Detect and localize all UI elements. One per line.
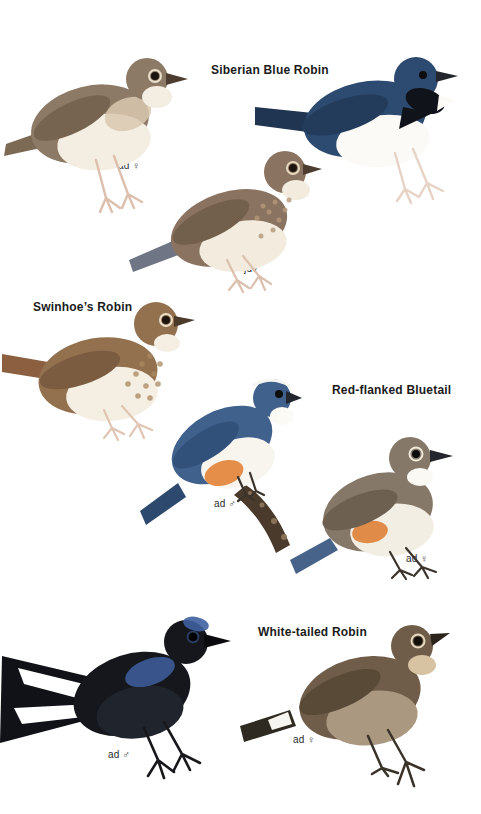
bird-beak <box>174 316 195 327</box>
bird-throat <box>282 180 310 200</box>
bird-beak <box>303 164 322 175</box>
bird-tail <box>140 483 186 525</box>
species-title-red-flanked-bluetail: Red-flanked Bluetail <box>332 383 451 397</box>
bird-eye <box>151 72 159 80</box>
bird-eye <box>412 450 420 458</box>
bird-eye <box>414 637 423 646</box>
bird-illustration <box>123 150 323 295</box>
bird-beak <box>286 391 302 404</box>
bird-throat <box>437 95 455 111</box>
field-guide-plate: Siberian Blue Robin Swinhoe’s Robin Red-… <box>0 0 481 814</box>
bird-illustration <box>238 618 480 793</box>
bird-beak <box>430 633 450 646</box>
bird-beak <box>166 73 188 85</box>
bird-throat <box>408 655 436 675</box>
figure-red-flanked-bluetail-male <box>138 373 303 563</box>
bird-eye <box>162 316 170 324</box>
figure-white-tailed-robin-male <box>0 608 240 788</box>
bird-eye <box>419 71 427 79</box>
bird-throat <box>142 86 172 108</box>
bird-eye <box>275 390 283 398</box>
bird-eye <box>189 633 197 641</box>
bird-throat <box>154 334 180 352</box>
bird-eye <box>289 164 297 172</box>
bird-beak <box>436 71 458 82</box>
bird-throat <box>270 407 294 425</box>
figure-red-flanked-bluetail-female <box>288 428 480 583</box>
bird-beak <box>430 450 453 462</box>
bird-illustration <box>0 608 240 788</box>
bird-beak <box>204 634 231 648</box>
bird-tail <box>290 538 338 574</box>
figure-siberian-blue-robin-juv <box>123 150 323 295</box>
bird-throat <box>407 468 433 486</box>
figure-white-tailed-robin-female <box>238 618 480 793</box>
bird-illustration <box>138 373 303 563</box>
bird-illustration <box>288 428 480 583</box>
